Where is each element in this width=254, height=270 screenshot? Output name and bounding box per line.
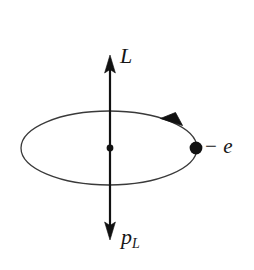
nucleus-dot [107, 145, 114, 152]
angular-momentum-label: L [120, 45, 132, 67]
minus-sign: − [205, 134, 218, 158]
charge-symbol: e [223, 134, 232, 158]
magnetic-moment-label: pL [121, 226, 140, 251]
electron-dot [190, 142, 203, 155]
orbit-direction-arrowhead [161, 113, 183, 126]
magnetic-moment-base-symbol: p [121, 224, 132, 249]
physics-diagram-figure: L pL − e [0, 0, 254, 270]
magnetic-moment-subscript: L [132, 236, 140, 251]
electron-charge-label: − e [205, 136, 233, 157]
